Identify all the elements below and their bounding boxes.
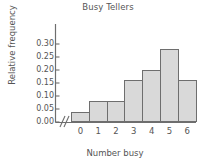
bar [71, 112, 90, 122]
x-tick-label: 2 [108, 126, 124, 136]
bar [142, 70, 161, 122]
y-tick-label-text: 0.15 [28, 78, 54, 87]
y-tick-label: 0.10 [28, 91, 54, 101]
bar [178, 80, 197, 122]
plot-area: 0.000.050.100.150.200.250.300123456 [0, 0, 216, 167]
x-tick-label: 6 [179, 126, 195, 136]
bar [89, 101, 108, 122]
y-tick-label: 0.15 [28, 78, 54, 88]
chart-container: Busy Tellers Relative frequency Number b… [0, 0, 216, 167]
y-tick-label: 0.20 [28, 65, 54, 75]
y-tick-label-text: 0.00 [28, 117, 54, 126]
y-tick-label-text: 0.10 [28, 91, 54, 100]
x-tick-label: 5 [161, 126, 177, 136]
y-tick-label: 0.05 [28, 104, 54, 114]
y-tick-label: 0.30 [28, 39, 54, 49]
y-tick-label: 0.25 [28, 52, 54, 62]
y-tick-label: 0.00 [28, 117, 54, 127]
y-tick-label-text: 0.20 [28, 65, 54, 74]
x-tick-label: 4 [144, 126, 160, 136]
x-tick-label: 1 [90, 126, 106, 136]
bar [160, 49, 179, 122]
x-tick-label: 0 [72, 126, 88, 136]
bar [124, 80, 143, 122]
bar [107, 101, 126, 122]
y-tick-label-text: 0.05 [28, 104, 54, 113]
y-tick-label-text: 0.30 [28, 39, 54, 48]
y-tick-label-text: 0.25 [28, 52, 54, 61]
x-tick-label: 3 [126, 126, 142, 136]
